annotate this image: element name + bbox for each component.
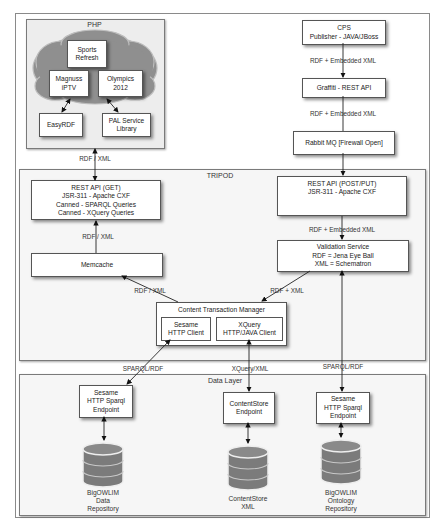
db-right-line3: Repository [306, 505, 376, 513]
graffiti-label: Graffiti - REST API [317, 84, 372, 92]
db-right-label: BigOWLIM Ontology Repository [306, 489, 376, 513]
db-right-line1: BigOWLIM [306, 489, 376, 497]
rest-api-get-box: REST API (GET) JSR-311 - Apache CXF Cann… [31, 180, 161, 220]
pal-line2: Library [116, 125, 136, 133]
rabbit-mq-box: Rabbit MQ [Firewall Open] [293, 131, 395, 155]
db-middle-label: ContentStore XML [213, 495, 283, 511]
db-right-line2: Ontology [306, 497, 376, 505]
endpoint-right-line1: Sesame [331, 395, 355, 403]
sesame-client-line1: Sesame [174, 321, 198, 329]
rest-get-line3: Canned - SPARQL Queries [56, 201, 136, 209]
db-left-label: BigOWLIM Data Repository [68, 489, 138, 513]
sesame-client-line2: HTTP Client [168, 329, 204, 337]
data-layer-title: Data Layer [195, 377, 255, 384]
edge-xquery-label: XQuery/XML [225, 365, 275, 372]
endpoint-left-line3: Endpoint [93, 406, 119, 414]
memcache-box: Memcache [31, 253, 163, 277]
cps-publisher-box: CPS Publisher - JAVA/JBoss [302, 20, 386, 45]
edge-php-tripod-label: RDF / XML [70, 155, 120, 162]
endpoint-mid-line2: Endpoint [236, 408, 262, 416]
validation-service-box: Validation Service RDF = Jena Eye Ball X… [277, 240, 409, 272]
sports-refresh-line1: Sports [77, 46, 96, 54]
easyrdf-box: EasyRDF [39, 113, 83, 137]
db-mid-line1: ContentStore [213, 495, 283, 503]
endpoint-right-line3: Endpoint [330, 412, 356, 420]
contentstore-endpoint-box: ContentStore Endpoint [223, 392, 275, 424]
olympics-line2: 2012 [113, 84, 128, 92]
sesame-endpoint-left-box: Sesame HTTP Sparql Endpoint [79, 385, 133, 418]
rest-post-line1: REST API (POST/PUT) [308, 180, 377, 188]
edge-get-memcache-label: RDF / XML [73, 233, 123, 240]
validation-line1: Validation Service [317, 243, 369, 251]
endpoint-right-line2: HTTP Sparql [324, 404, 362, 412]
db-left-line3: Repository [68, 505, 138, 513]
rest-api-post-box: REST API (POST/PUT) JSR-311 - Apache CXF [277, 176, 407, 216]
graffiti-rest-api-box: Graffiti - REST API [302, 78, 386, 98]
rest-post-line2: JSR-311 - Apache CXF [308, 188, 376, 196]
rest-get-line4: Canned - XQuery Queries [58, 209, 134, 217]
xquery-client-box: XQuery HTTP/JAVA Client [216, 317, 283, 341]
magnuss-line2: iPTV [62, 84, 76, 92]
db-mid-line2: XML [213, 503, 283, 511]
ctm-title: Content Transaction Manager [178, 306, 265, 314]
cps-line2: Publisher - JAVA/JBoss [310, 33, 379, 41]
rest-get-line1: REST API (GET) [71, 184, 120, 192]
magnuss-line1: Magnuss [56, 75, 83, 83]
db-left-line2: Data [68, 497, 138, 505]
edge-graffiti-rabbit-label: RDF + Embedded XML [302, 110, 384, 117]
olympics-line1: Olympics [107, 75, 134, 83]
edge-sparql-left-label: SPARQL/RDF [118, 365, 168, 372]
edge-memcache-ctm-label: RDF / XML [125, 287, 175, 294]
xquery-client-line1: XQuery [238, 321, 260, 329]
easyrdf-label: EasyRDF [47, 121, 75, 129]
validation-line3: XML = Schematron [315, 260, 371, 268]
db-left-line1: BigOWLIM [68, 489, 138, 497]
cps-line1: CPS [337, 24, 351, 32]
sesame-endpoint-right-box: Sesame HTTP Sparql Endpoint [316, 392, 370, 424]
magnuss-iptv-box: Magnuss iPTV [49, 70, 89, 97]
rabbit-label: Rabbit MQ [Firewall Open] [305, 139, 383, 147]
validation-line2: RDF = Jena Eye Ball [312, 252, 373, 260]
edge-validation-ctm-label: RDF + XML [262, 287, 312, 294]
endpoint-left-line1: Sesame [94, 389, 118, 397]
edge-post-validation-label: RDF + Embedded XML [300, 226, 384, 233]
sports-refresh-line2: Refresh [75, 54, 98, 62]
sports-refresh-box: Sports Refresh [67, 40, 107, 68]
pal-service-library-box: PAL Service Library [102, 113, 151, 137]
tripod-panel-title: TRIPOD [180, 172, 260, 179]
olympics-2012-box: Olympics 2012 [98, 70, 143, 97]
edge-cps-graffiti-label: RDF + Embedded XML [302, 57, 384, 64]
pal-line1: PAL Service [109, 117, 145, 125]
rest-get-line2: JSR-311 - Apache CXF [62, 192, 130, 200]
edge-sparql-right-label: SPARQL/RDF [318, 363, 368, 370]
xquery-client-line2: HTTP/JAVA Client [223, 329, 276, 337]
memcache-label: Memcache [81, 261, 113, 269]
endpoint-mid-line1: ContentStore [230, 400, 269, 408]
php-panel-title: PHP [26, 21, 163, 28]
endpoint-left-line2: HTTP Sparql [87, 397, 125, 405]
sesame-http-client-box: Sesame HTTP Client [161, 317, 211, 341]
